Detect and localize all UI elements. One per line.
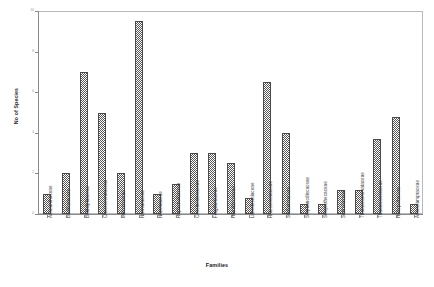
x-axis-category-label: Stellarimaceae <box>287 160 292 218</box>
x-axis-tick <box>157 214 158 218</box>
x-axis-tick <box>121 214 122 218</box>
x-axis-tick <box>194 214 195 218</box>
y-axis-tick-label: 2 <box>26 171 34 174</box>
x-axis-category-label: Asterolampraceae <box>416 160 421 218</box>
x-axis-category-label: Surirellaceae <box>342 160 347 218</box>
x-axis-category-label: Heliopeltaceae <box>397 160 402 218</box>
x-axis-tick <box>359 214 360 218</box>
x-axis-category-label: Rhizosoleniaceae <box>269 160 274 218</box>
x-axis-category-label: Raphoneidaceae <box>177 160 182 218</box>
x-axis-category-label: Thalassiosiraceae <box>379 160 384 218</box>
x-axis-tick <box>341 214 342 218</box>
x-axis-tick <box>102 214 103 218</box>
x-axis-tick <box>396 214 397 218</box>
x-axis-title: Families <box>0 262 434 268</box>
x-axis-category-label: Chaetocerataceae <box>104 160 109 218</box>
x-axis-category-label: Hemidiscaceae <box>232 160 237 218</box>
y-axis-tick <box>35 92 39 93</box>
bar-chart-figure: No of Species AchnanthaceaeBacillariacea… <box>0 0 434 287</box>
x-axis-tick <box>377 214 378 218</box>
y-axis-tick-label: 4 <box>26 131 34 134</box>
y-axis-title: No of Species <box>13 78 19 134</box>
y-axis-tick-label: 6 <box>26 90 34 93</box>
x-axis-category-label: Achnanthaceae <box>49 160 54 218</box>
x-axis-category-label: Coscinodiscaceae <box>196 160 201 218</box>
x-axis-tick <box>267 214 268 218</box>
x-axis-category-label: Naviculaceae <box>141 160 146 218</box>
x-axis-tick <box>322 214 323 218</box>
x-axis-labels: AchnanthaceaeBacillariaceaeBiddulphiacea… <box>38 218 423 280</box>
y-axis-tick <box>35 173 39 174</box>
x-axis-tick <box>414 214 415 218</box>
x-axis-category-label: Lithodesmiaceae <box>251 160 256 218</box>
y-axis-tick-label: 8 <box>26 50 34 53</box>
x-axis-tick <box>47 214 48 218</box>
y-axis-tick <box>35 11 39 12</box>
y-axis-tick-label: 0 <box>26 212 34 215</box>
x-axis-tick <box>212 214 213 218</box>
x-axis-category-label: Biddulphiaceae <box>86 160 91 218</box>
x-axis-category-label: Nitzchiaceae <box>159 160 164 218</box>
x-axis-tick <box>231 214 232 218</box>
y-axis-tick-label: 10 <box>26 9 34 12</box>
x-axis-tick <box>249 214 250 218</box>
x-axis-category-label: Fragillariaceae <box>214 160 219 218</box>
y-axis-tick <box>35 214 39 215</box>
x-axis-tick <box>84 214 85 218</box>
x-axis-category-label: Streptothecaceae <box>324 160 329 218</box>
x-axis-tick <box>286 214 287 218</box>
x-axis-category-label: Thalassionemataceae <box>361 160 366 218</box>
x-axis-category-label: Stephanodiscaceae <box>306 160 311 218</box>
y-axis-tick <box>35 52 39 53</box>
x-axis-tick <box>139 214 140 218</box>
x-axis-tick <box>304 214 305 218</box>
x-axis-category-label: Melosiraceae <box>122 160 127 218</box>
x-axis-tick <box>176 214 177 218</box>
y-axis-tick <box>35 133 39 134</box>
x-axis-tick <box>66 214 67 218</box>
x-axis-category-label: Bacillariaceae <box>67 160 72 218</box>
